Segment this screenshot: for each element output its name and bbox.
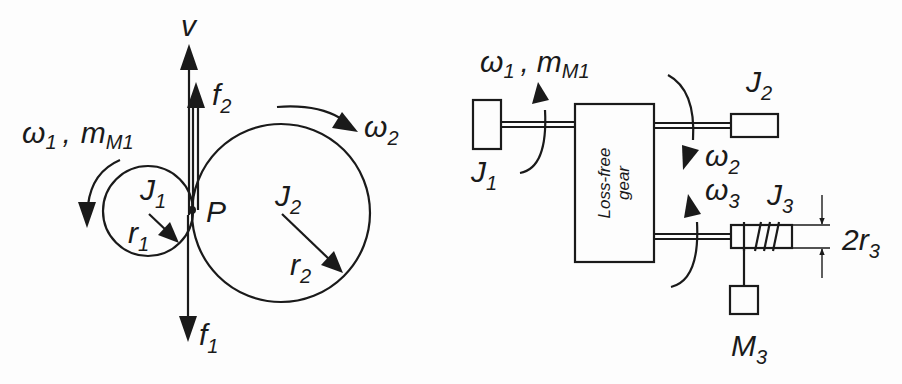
diameter-dimension	[792, 195, 830, 278]
omega-3-label-right: ω3	[705, 173, 740, 212]
inertia-2-label-right: J2	[745, 65, 772, 104]
omega-2-label: ω2	[364, 110, 399, 149]
inertia-2-block	[731, 114, 778, 137]
omega-1-torque-label-right: ω1,mM1	[480, 45, 590, 82]
gear-box-label-line1: Loss-free	[595, 148, 614, 219]
radius-2-label: r2	[290, 248, 311, 287]
diameter-label: 2r3	[841, 223, 880, 262]
omega-1-rotation-arrow	[78, 160, 120, 228]
gear-box-label-line2: gear	[614, 165, 633, 200]
inertia-3-label: J3	[766, 178, 793, 217]
velocity-label: v	[181, 9, 198, 42]
omega-2-rotation-arrow	[277, 106, 358, 132]
diagram-canvas: v f2 f1 ω1,mM1 ω2 J1 r1 P J2 r2 Loss-fre…	[0, 0, 902, 384]
gear-system-diagram: Loss-free gear	[470, 45, 880, 368]
inertia-1-label-right: J1	[470, 155, 497, 194]
contact-point-dot	[188, 206, 196, 214]
inertia-1-block	[473, 100, 501, 149]
force-1-label: f1	[199, 318, 218, 357]
mass-3-label: M3	[731, 329, 767, 368]
mass-3-block	[730, 286, 758, 314]
force-2-label: f2	[212, 78, 231, 117]
radius-1-arrow	[149, 214, 179, 243]
radius-1-label: r1	[128, 216, 149, 255]
contact-point-label: P	[206, 195, 226, 228]
omega-1-torque-label: ω1,mM1	[22, 116, 134, 153]
gear-pair-diagram: v f2 f1 ω1,mM1 ω2 J1 r1 P J2 r2	[22, 9, 399, 357]
omega-3-rotation-arrow-right	[671, 194, 701, 287]
inertia-1-label: J1	[139, 173, 166, 212]
inertia-2-label: J2	[274, 179, 301, 218]
winch-drum-j3	[731, 222, 792, 251]
